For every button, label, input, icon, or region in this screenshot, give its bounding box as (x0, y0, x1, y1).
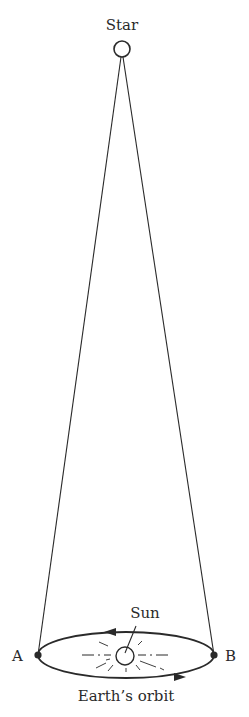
orbit-label: Earth’s orbit (78, 687, 175, 705)
parallax-diagram: Star A B Sun Earth’s orbit (0, 0, 249, 717)
star-icon (114, 41, 130, 57)
orbit-arrow-right-icon (174, 673, 186, 681)
sun-label: Sun (130, 604, 160, 622)
sightline-a (38, 57, 121, 655)
point-a-label: A (11, 647, 23, 665)
point-a-marker (34, 651, 41, 658)
point-b-label: B (225, 647, 236, 665)
orbit-arrow-left-icon (104, 628, 116, 636)
sightline-b (123, 57, 214, 655)
point-b-marker (210, 651, 217, 658)
star-label: Star (106, 16, 139, 34)
sun-icon (82, 641, 168, 672)
